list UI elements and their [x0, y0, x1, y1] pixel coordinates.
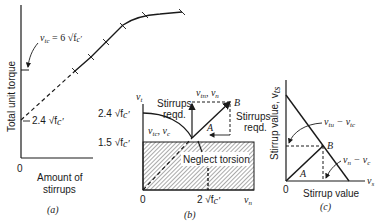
panel-c-point-b: B [327, 140, 333, 151]
panel-b-point-b: B [234, 97, 240, 108]
panel-a-caption: (a) [47, 204, 59, 216]
panel-a-origin: 0 [17, 163, 23, 174]
panel-b-stirrups-left-2: reqd. [163, 109, 186, 120]
panel-a-vtc-label: vtc = 6 √fc′ [40, 32, 82, 45]
panel-b-tick-high: 2.4 √fc′ [98, 108, 130, 120]
panel-b-point-a: A [206, 122, 214, 133]
panel-a-vtc-pointer [28, 43, 38, 67]
panel-c-diagonal-down [286, 95, 349, 181]
panel-b-x-axis-label: vn [244, 194, 252, 207]
diagram-canvas: vtc = 6 √fc′ 2.4 √fc′ Total unit torque … [0, 0, 387, 224]
panel-b-stirrups-left-1: Stirrups [157, 98, 191, 109]
panel-c-lower-pointer [326, 161, 341, 178]
panel-c-upper-label: vtu − vtc [324, 116, 356, 129]
panel-c-origin: 0 [283, 184, 289, 195]
panel-c: Stirrup value, vts vtu − vtc B A vn − vc… [269, 80, 374, 213]
panel-a-curve [75, 12, 182, 71]
panel-b-vtc-vc-label: vtc, vc [148, 125, 171, 138]
panel-c-lower-label: vn − vc [343, 154, 371, 167]
panel-c-upper-pointer [289, 123, 322, 143]
panel-c-point-a: A [299, 168, 307, 179]
panel-a-low-label: 2.4 √fc′ [32, 115, 64, 127]
panel-c-x-axis-label: vs [367, 175, 374, 188]
panel-b-caption: (b) [184, 209, 196, 221]
panel-b-tick-low: 1.5 √fc′ [98, 137, 130, 149]
panel-b: vt 2.4 √fc′ 1.5 √fc′ Stirrups reqd. Stir… [98, 87, 270, 221]
panel-b-vtn-vn-label: vtn, vn [196, 87, 219, 100]
panel-a-y-label: Total unit torque [6, 60, 17, 132]
panel-b-y-axis-label: vt [136, 91, 143, 104]
panel-c-x-label: Stirrup value [303, 188, 360, 199]
panel-a-marks [72, 9, 185, 74]
panel-a-dashed-segment [21, 71, 75, 120]
panel-b-stirrups-right-1: Stirrups [236, 111, 270, 122]
panel-b-x-tick: 2 √fc′ [197, 194, 221, 206]
panel-c-caption: (c) [320, 201, 332, 213]
panel-c-y-label: Stirrup value, vts [269, 87, 282, 160]
panel-a-x-label-1: Amount of [37, 172, 83, 183]
panel-b-stirrups-right-2: reqd. [244, 122, 267, 133]
panel-a-x-label-2: stirrups [43, 184, 76, 195]
panel-b-origin: 0 [140, 194, 146, 205]
neglect-torsion-label: Neglect torsion [183, 154, 250, 165]
